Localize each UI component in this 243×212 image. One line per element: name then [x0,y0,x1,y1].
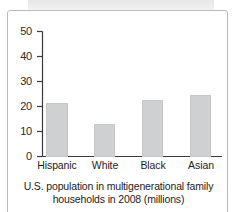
y-tick-label-20: 20 [14,101,32,112]
y-axis-ticks [37,32,43,157]
bar-chart: 50 40 30 20 10 0 Hispanic White Black As… [0,0,243,212]
bar-black [142,100,163,156]
bar-hispanic [46,103,68,157]
y-tick-label-30: 30 [14,76,32,87]
chart-caption-line-2: households in 2008 (millions) [16,193,221,206]
y-tick-label-10: 10 [14,126,32,137]
bar-white [94,124,115,157]
y-tick-label-50: 50 [14,26,32,37]
chart-caption: U.S. population in multigenerational fam… [16,180,221,205]
y-tick-label-40: 40 [14,51,32,62]
chart-caption-line-1: U.S. population in multigenerational fam… [16,180,221,193]
bar-asian [190,95,211,156]
x-label-asian: Asian [173,159,229,171]
